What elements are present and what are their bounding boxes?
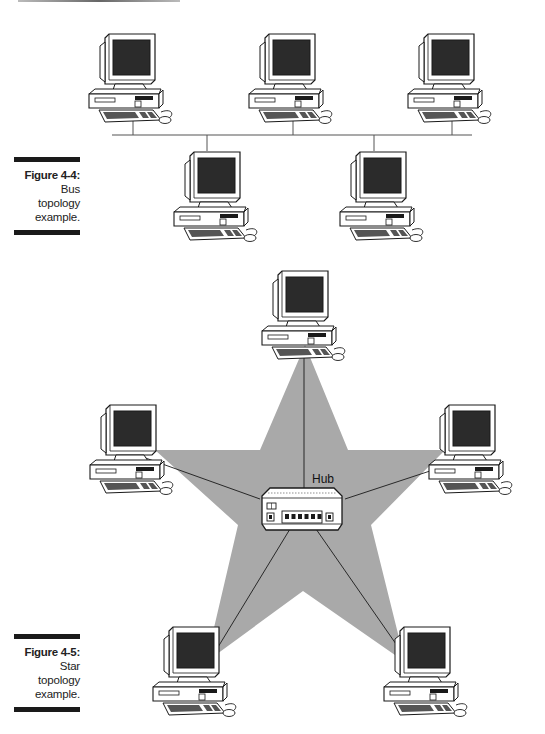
hub-port — [285, 514, 289, 519]
computer-icon — [262, 271, 345, 361]
hub-icon — [262, 488, 342, 530]
computer-icon — [408, 34, 491, 124]
hub-label: Hub — [312, 472, 334, 486]
computer-icon — [89, 34, 172, 124]
bus-topology — [89, 34, 491, 242]
hub-port — [298, 514, 302, 519]
topology-diagrams: Hub — [0, 0, 545, 734]
hub-port — [305, 514, 309, 519]
star-topology: Hub — [90, 271, 512, 717]
computer-icon — [174, 152, 257, 242]
hub-port — [311, 514, 315, 519]
computer-icon — [384, 627, 467, 717]
hub-port — [292, 514, 296, 519]
computer-icon — [429, 405, 512, 495]
computer-icon — [90, 405, 173, 495]
hub-port — [318, 514, 322, 519]
computer-icon — [249, 34, 332, 124]
computer-icon — [340, 152, 423, 242]
